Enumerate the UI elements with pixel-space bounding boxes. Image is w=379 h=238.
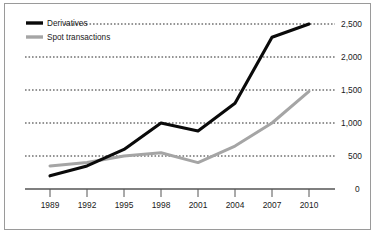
chart-legend: Derivatives Spot transactions — [26, 19, 110, 42]
xtick-label-2001: 2001 — [189, 200, 208, 210]
legend-label-spot-transactions: Spot transactions — [47, 33, 110, 42]
xtick-label-2010: 2010 — [300, 200, 319, 210]
y-axis-labels: 2,500 2,000 1,500 1,000 500 0 — [341, 19, 362, 194]
x-axis-labels: 1989 1992 1995 1998 2001 2004 2007 2010 — [41, 200, 319, 210]
xtick-label-2007: 2007 — [263, 200, 282, 210]
xtick-label-2004: 2004 — [226, 200, 245, 210]
legend-label-derivatives: Derivatives — [47, 19, 88, 28]
ytick-label-0: 0 — [355, 184, 360, 194]
xtick-label-1992: 1992 — [78, 200, 97, 210]
ytick-label-1500: 1,500 — [341, 85, 362, 95]
ytick-label-1000: 1,000 — [341, 118, 362, 128]
series-line-derivatives — [50, 24, 309, 176]
chart-frame: 2,500 2,000 1,500 1,000 500 0 1989 1992 … — [4, 3, 371, 230]
xtick-label-1995: 1995 — [115, 200, 134, 210]
xtick-label-1998: 1998 — [152, 200, 171, 210]
gridlines — [25, 24, 335, 156]
x-axis-ticks — [50, 189, 309, 197]
ytick-label-2000: 2,000 — [341, 52, 362, 62]
xtick-label-1989: 1989 — [41, 200, 60, 210]
series-line-spot-transactions — [50, 91, 309, 166]
chart-plot-area: 2,500 2,000 1,500 1,000 500 0 1989 1992 … — [5, 4, 372, 231]
ytick-label-2500: 2,500 — [341, 19, 362, 29]
ytick-label-500: 500 — [348, 151, 362, 161]
line-chart-svg: 2,500 2,000 1,500 1,000 500 0 1989 1992 … — [5, 4, 372, 231]
